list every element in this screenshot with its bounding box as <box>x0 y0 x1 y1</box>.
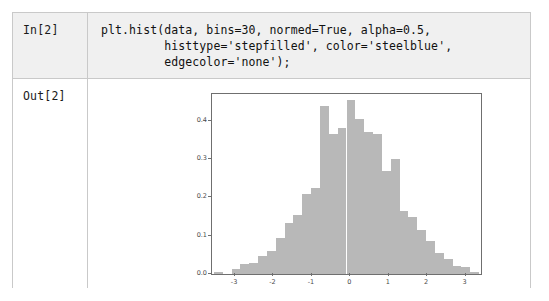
histogram-bar <box>347 100 356 274</box>
y-axis-tick-mark <box>208 158 211 159</box>
y-axis-tick-mark <box>208 196 211 197</box>
histogram-bar <box>426 241 435 274</box>
histogram-bar <box>355 119 364 274</box>
histogram-bar <box>417 230 426 274</box>
histogram-bar <box>408 217 417 274</box>
histogram-bar <box>435 253 444 274</box>
histogram-bar <box>240 264 249 274</box>
x-axis-tick-label: -3 <box>231 278 237 286</box>
input-cell-row: In[2] plt.hist(data, bins=30, normed=Tru… <box>13 13 530 79</box>
histogram-bar <box>373 134 382 274</box>
histogram-bar <box>258 256 267 274</box>
figure-container: 0.00.10.20.30.4 -3-2-10123 <box>88 79 530 288</box>
x-axis-tick-mark <box>426 273 427 276</box>
x-axis-tick-mark <box>311 273 312 276</box>
histogram-bar <box>232 269 241 274</box>
histogram-bar <box>293 215 302 274</box>
x-axis-tick-label: 2 <box>424 278 428 286</box>
code-source-text[interactable]: plt.hist(data, bins=30, normed=True, alp… <box>101 22 452 70</box>
x-axis-tick-mark <box>388 273 389 276</box>
y-axis-tick-label: 0.3 <box>197 154 207 162</box>
y-axis-tick-mark <box>208 120 211 121</box>
x-axis-tick-label: 0 <box>347 278 351 286</box>
y-axis-tick-label: 0.0 <box>197 269 207 277</box>
histogram-bar <box>285 223 294 274</box>
y-axis-tick-mark <box>208 273 211 274</box>
plot-axes-frame <box>211 93 482 275</box>
x-axis-tick-mark <box>234 273 235 276</box>
histogram-bar <box>338 128 347 274</box>
y-axis-tick-label: 0.1 <box>197 231 207 239</box>
histogram-bar <box>461 267 470 274</box>
histogram-bar <box>214 272 223 274</box>
output-prompt-column: Out[2] <box>13 79 88 288</box>
histogram-bars-layer <box>212 94 481 274</box>
histogram-bar <box>391 159 400 274</box>
output-content-column: 0.00.10.20.30.4 -3-2-10123 <box>88 79 530 288</box>
histogram-bar <box>320 106 329 275</box>
histogram-bar <box>249 263 258 274</box>
histogram-bar <box>364 132 373 274</box>
output-cell-row: Out[2] 0.00.10.20.30.4 -3-2-10123 <box>13 79 530 288</box>
histogram-bar <box>311 188 320 274</box>
histogram-bar <box>276 238 285 274</box>
x-axis-tick-label: 3 <box>463 278 467 286</box>
output-prompt-label: Out[2] <box>23 89 66 103</box>
x-axis-tick-mark <box>272 273 273 276</box>
x-axis-tick-mark <box>349 273 350 276</box>
histogram-bar <box>267 251 276 274</box>
y-axis-tick-label: 0.4 <box>197 116 207 124</box>
histogram-bar <box>453 266 462 274</box>
histogram-bar <box>444 259 453 274</box>
histogram-bar <box>400 211 409 274</box>
input-code-column[interactable]: plt.hist(data, bins=30, normed=True, alp… <box>88 13 530 78</box>
input-prompt-column: In[2] <box>13 13 88 78</box>
notebook-cell-table: In[2] plt.hist(data, bins=30, normed=Tru… <box>12 12 531 288</box>
histogram-bar <box>302 194 311 274</box>
x-axis-tick-label: 1 <box>386 278 390 286</box>
y-axis-tick-mark <box>208 235 211 236</box>
histogram-bar <box>329 134 338 274</box>
histogram-bar <box>382 171 391 274</box>
x-axis-tick-label: -2 <box>269 278 275 286</box>
y-axis-tick-label: 0.2 <box>197 192 207 200</box>
histogram-figure: 0.00.10.20.30.4 -3-2-10123 <box>181 89 471 285</box>
x-axis-tick-mark <box>465 273 466 276</box>
x-axis-tick-label: -1 <box>308 278 314 286</box>
input-prompt-label: In[2] <box>23 23 59 37</box>
histogram-bar <box>470 272 479 274</box>
